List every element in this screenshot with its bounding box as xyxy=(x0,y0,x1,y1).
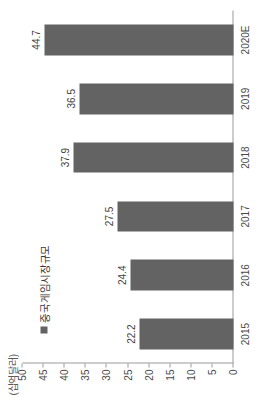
bar-rect[interactable] xyxy=(79,83,233,114)
category-label: 2017 xyxy=(239,205,250,227)
category-label: 2016 xyxy=(239,264,250,286)
bar-group[interactable]: 22.2 xyxy=(22,318,233,349)
bar-value-label: 24.4 xyxy=(116,265,127,284)
bar-chart-figure: (십억달러) 중국게임시장규모 22.224.427.537.936.544.7… xyxy=(0,0,271,401)
value-axis-tick-label: 10 xyxy=(185,369,196,380)
value-axis-tick-mark xyxy=(232,363,233,367)
value-axis-tick-label: 15 xyxy=(164,369,175,380)
value-axis-tick-mark xyxy=(105,363,106,367)
bar-rect[interactable] xyxy=(73,142,233,173)
bar-group[interactable]: 37.9 xyxy=(22,142,233,173)
category-label: 2015 xyxy=(239,322,250,344)
value-axis-tick-label: 40 xyxy=(59,369,70,380)
bar-group[interactable]: 36.5 xyxy=(22,83,233,114)
rotated-figure-wrapper: (십억달러) 중국게임시장규모 22.224.427.537.936.544.7… xyxy=(0,0,271,401)
value-axis-tick-label: 30 xyxy=(101,369,112,380)
bar-value-label: 44.7 xyxy=(30,30,41,49)
value-axis-tick-mark xyxy=(127,363,128,367)
value-axis-tick-mark xyxy=(63,363,64,367)
bar-value-label: 37.9 xyxy=(59,147,70,166)
bar-rect[interactable] xyxy=(44,24,233,55)
value-axis-tick-label: 20 xyxy=(143,369,154,380)
value-axis-tick-mark xyxy=(42,363,43,367)
plot-area: 22.224.427.537.936.544.7 051015202530354… xyxy=(22,10,233,363)
bar-value-label: 27.5 xyxy=(103,206,114,225)
value-axis-tick-mark xyxy=(84,363,85,367)
value-axis-tick-label: 25 xyxy=(122,369,133,380)
bar-group[interactable]: 24.4 xyxy=(22,259,233,290)
bar-rect[interactable] xyxy=(117,201,233,232)
bar-group[interactable]: 44.7 xyxy=(22,24,233,55)
bar-rect[interactable] xyxy=(130,259,233,290)
category-label: 2019 xyxy=(239,87,250,109)
value-axis-tick-mark xyxy=(21,363,22,367)
bar-rect[interactable] xyxy=(139,318,233,349)
category-label: 2020E xyxy=(239,25,250,54)
value-axis-tick-label: 5 xyxy=(206,369,217,375)
value-axis-tick-label: 50 xyxy=(17,369,28,380)
value-axis-tick-label: 0 xyxy=(228,369,239,375)
bars-layer: 22.224.427.537.936.544.7 xyxy=(22,10,233,363)
category-label: 2018 xyxy=(239,146,250,168)
bar-group[interactable]: 27.5 xyxy=(22,201,233,232)
bar-value-label: 22.2 xyxy=(125,324,136,343)
value-axis-tick-mark xyxy=(148,363,149,367)
value-axis-tick-label: 45 xyxy=(38,369,49,380)
value-axis-tick-mark xyxy=(211,363,212,367)
value-axis-tick-mark xyxy=(169,363,170,367)
bar-value-label: 36.5 xyxy=(65,89,76,108)
value-axis-tick-mark xyxy=(190,363,191,367)
value-axis-tick-label: 35 xyxy=(80,369,91,380)
